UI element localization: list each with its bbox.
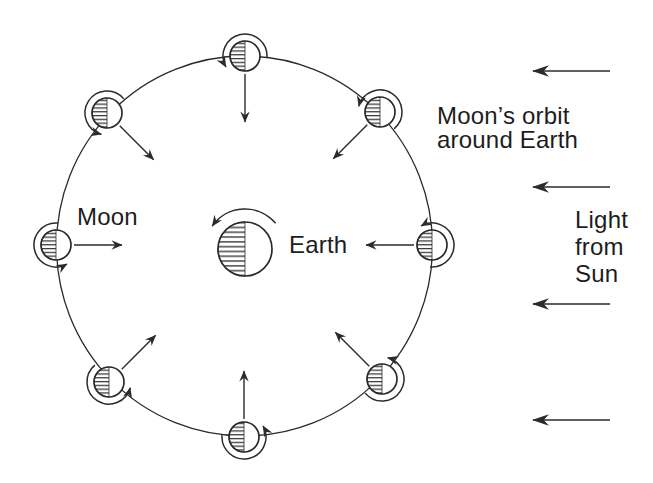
orbit-caption-line2: around Earth (437, 128, 578, 152)
moon-centripetal-arrow (122, 335, 156, 369)
moon-northwest-group (85, 91, 154, 160)
moon-orbit-figure: Moon Earth Moon’s orbit around Earth Lig… (0, 0, 653, 483)
moon-shadow-hatch (367, 364, 382, 394)
light-caption-line1: Light (575, 206, 628, 233)
moon-centripetal-arrow (335, 332, 369, 366)
moon-southwest-group (87, 335, 156, 404)
moon-shadow-hatch (230, 41, 245, 71)
moon-north-group (223, 34, 267, 122)
moon-east-group (366, 223, 454, 267)
orbit-caption-line1: Moon’s orbit (437, 104, 578, 128)
moon-shadow-hatch (94, 367, 109, 397)
moon-label: Moon (77, 205, 138, 229)
earth-label: Earth (289, 233, 347, 257)
moon-south-group (222, 371, 266, 459)
moon-northeast-group (333, 90, 402, 159)
moon-shadow-hatch (417, 230, 432, 260)
earth-group (212, 209, 275, 276)
moon-southeast-group (335, 332, 404, 401)
earth-shadow-hatch (218, 222, 245, 276)
moon-shadow-hatch (229, 422, 244, 452)
light-caption-line2: from (575, 233, 628, 260)
light-caption-line3: Sun (575, 260, 628, 287)
moon-shadow-hatch (92, 98, 107, 128)
moon-centripetal-arrow (120, 126, 154, 160)
moon-shadow-hatch (41, 230, 56, 260)
moon-centripetal-arrow (333, 125, 367, 159)
orbit-caption: Moon’s orbit around Earth (437, 104, 578, 152)
light-from-sun-caption: Light from Sun (575, 206, 628, 287)
